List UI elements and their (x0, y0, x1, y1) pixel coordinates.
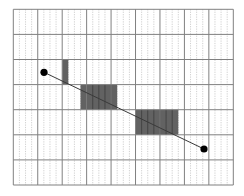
start-point-icon (40, 69, 47, 76)
end-point-icon (200, 145, 207, 152)
shaded-pixel-runs (62, 60, 178, 135)
shaded-pixel-run (62, 60, 68, 85)
grid-canvas (0, 0, 244, 196)
minor-grid-lines (19, 9, 227, 185)
rasterization-diagram (0, 0, 244, 196)
